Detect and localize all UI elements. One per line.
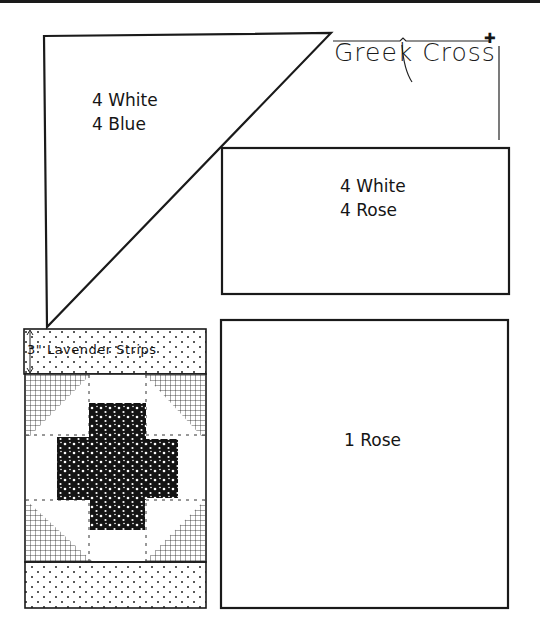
rectangle-label-line2: 4 Rose	[340, 200, 397, 220]
square-template	[221, 320, 508, 608]
rectangle-label-line1: 4 White	[340, 176, 406, 196]
rectangle-template	[222, 148, 509, 294]
pattern-title: Greek Cross	[334, 38, 496, 67]
triangle-label-line1: 4 White	[92, 90, 158, 110]
triangle-label-line2: 4 Blue	[92, 114, 146, 134]
block-illustration	[24, 329, 206, 608]
square-label: 1 Rose	[344, 430, 401, 450]
strip-label: 3" Lavender Strips	[27, 342, 157, 357]
cross-mark-icon: ✚	[484, 30, 496, 47]
triangle-template	[44, 33, 331, 327]
pattern-diagram	[0, 0, 540, 637]
